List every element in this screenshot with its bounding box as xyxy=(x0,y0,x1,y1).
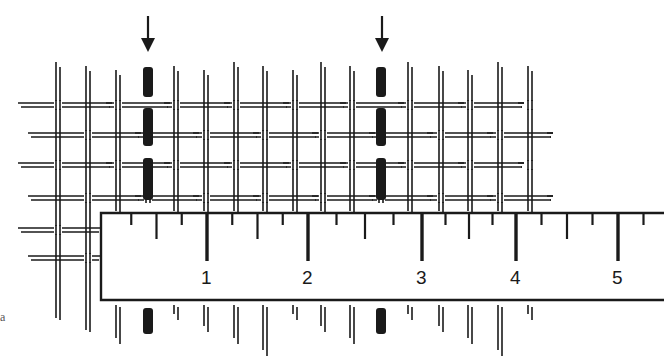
marked-thread-segment xyxy=(143,108,153,146)
ruler-label-4: 4 xyxy=(510,268,521,287)
marked-thread-segment xyxy=(143,308,153,334)
diagram-canvas xyxy=(0,0,669,356)
marked-thread-segment xyxy=(143,67,153,97)
marked-thread-segment xyxy=(376,308,386,334)
vertical-threads xyxy=(54,62,534,356)
arrows xyxy=(141,16,389,52)
marked-thread-segment xyxy=(143,158,153,200)
marked-thread-segment xyxy=(376,67,386,97)
ruler-label-5: 5 xyxy=(612,268,623,287)
panel-label: a xyxy=(0,310,5,325)
ruler-label-1: 1 xyxy=(201,268,212,287)
arrow-head-icon xyxy=(375,38,389,52)
marked-thread-segment xyxy=(376,108,386,146)
fabric-ruler-diagram: 1 2 3 4 5 a xyxy=(0,0,669,356)
ruler-label-2: 2 xyxy=(302,268,313,287)
ruler-label-3: 3 xyxy=(416,268,427,287)
ruler xyxy=(101,213,664,300)
arrow-head-icon xyxy=(141,38,155,52)
marked-thread-segment xyxy=(376,158,386,200)
